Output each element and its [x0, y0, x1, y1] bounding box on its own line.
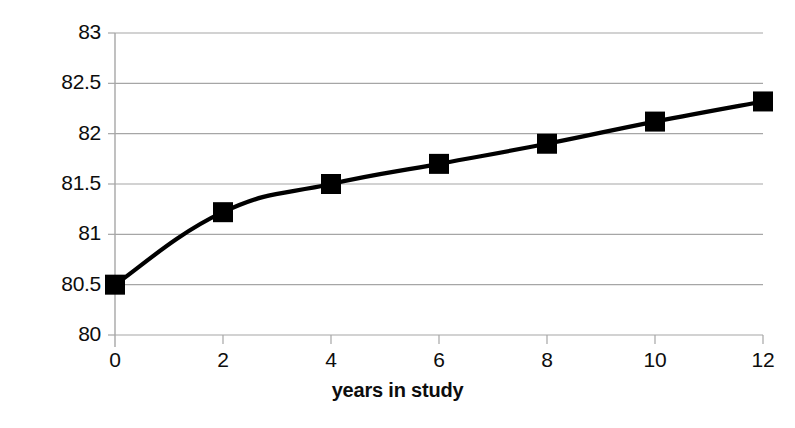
gridlines [115, 33, 763, 335]
x-axis-ticks [223, 335, 763, 344]
data-point-marker [645, 112, 665, 132]
y-axis-tick-label: 80.5 [0, 272, 101, 296]
y-axis-tick-label: 81.5 [0, 171, 101, 195]
line-chart: 8080.58181.58282.583 024681012 years in … [0, 0, 795, 428]
x-axis-tick-label: 6 [399, 348, 479, 372]
data-series-line [115, 101, 763, 284]
data-point-markers [105, 91, 773, 294]
y-axis-tick-label: 80 [0, 322, 101, 346]
x-axis-tick-label: 12 [723, 348, 795, 372]
data-point-marker [213, 202, 233, 222]
x-axis-tick-label: 10 [615, 348, 695, 372]
y-axis-tick-label: 82.5 [0, 70, 101, 94]
y-axis-tick-label: 82 [0, 121, 101, 145]
x-axis-tick-label: 8 [507, 348, 587, 372]
series-line-strength [115, 101, 763, 284]
x-axis-tick-label: 4 [291, 348, 371, 372]
data-point-marker [105, 275, 125, 295]
y-axis-tick-label: 83 [0, 20, 101, 44]
data-point-marker [753, 91, 773, 111]
x-axis-title: years in study [0, 379, 795, 402]
x-axis-tick-label: 2 [183, 348, 263, 372]
y-axis-tick-label: 81 [0, 221, 101, 245]
data-point-marker [429, 154, 449, 174]
data-point-marker [321, 174, 341, 194]
x-axis-tick-label: 0 [75, 348, 155, 372]
data-point-marker [537, 134, 557, 154]
